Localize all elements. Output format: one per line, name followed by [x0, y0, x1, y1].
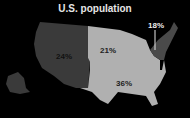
us-map: [0, 0, 190, 118]
region-midwest: [88, 26, 160, 70]
region-alaska: [6, 72, 30, 94]
label-west: 24%: [56, 52, 72, 61]
label-south: 36%: [116, 79, 132, 88]
label-midwest: 21%: [100, 46, 116, 55]
label-northeast: 18%: [148, 21, 164, 30]
